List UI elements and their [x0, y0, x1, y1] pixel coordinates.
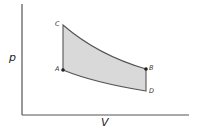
point-a-label: A	[54, 65, 59, 73]
pv-diagram: p V C A B D	[0, 0, 197, 129]
cycle-region	[63, 25, 146, 91]
point-b-label: B	[149, 64, 154, 72]
point-a-marker	[61, 68, 65, 72]
point-c-label: C	[55, 20, 60, 28]
point-d-label: D	[149, 87, 154, 95]
y-axis-label: p	[8, 51, 16, 64]
x-axis-label: V	[101, 116, 110, 129]
point-b-marker	[144, 67, 148, 71]
